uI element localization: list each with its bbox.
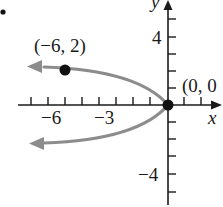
x-axis-label: x <box>207 107 217 128</box>
y-tick-label-4: 4 <box>152 27 162 48</box>
y-tick-label-neg4: −4 <box>138 164 159 185</box>
x-axis: −6 −3 x <box>18 97 222 128</box>
parabola-chart: −6 −3 x 4 −4 y (−6, 2) (0, 0 <box>0 0 223 207</box>
x-ticks <box>31 97 201 105</box>
curve-arrow-upper-icon <box>27 60 42 73</box>
bullet-marker <box>0 9 5 14</box>
point-neg6-2 <box>60 65 71 76</box>
y-axis-label: y <box>149 0 160 12</box>
curve-arrow-lower-icon <box>29 137 44 150</box>
point-origin <box>163 100 174 111</box>
x-tick-label-neg3: −3 <box>94 107 114 128</box>
point-label-origin: (0, 0 <box>182 75 217 97</box>
point-label-neg6-2: (−6, 2) <box>34 35 86 57</box>
y-axis-arrow-icon <box>164 0 173 10</box>
x-tick-label-neg6: −6 <box>41 107 61 128</box>
